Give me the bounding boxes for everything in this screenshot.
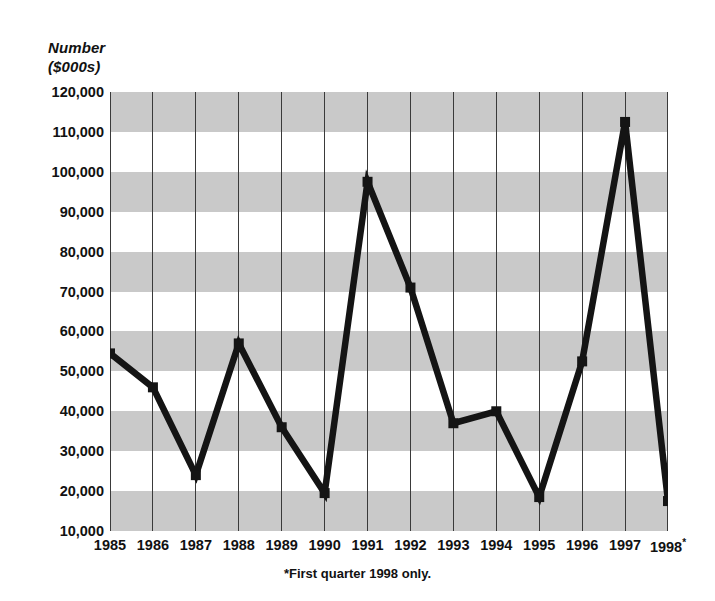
horizontal-band xyxy=(110,92,668,132)
data-point-marker xyxy=(534,492,544,502)
data-point-marker xyxy=(148,382,158,392)
y-axis-tick-labels: 120,000110,000100,00090,00080,00070,0006… xyxy=(24,92,104,531)
x-axis-tick-label: 1991 xyxy=(351,537,383,553)
x-axis-tick-label: 1997 xyxy=(609,537,641,553)
horizontal-band xyxy=(110,252,668,292)
x-axis-tick-label: 1993 xyxy=(437,537,469,553)
y-axis-tick-label: 100,000 xyxy=(28,164,104,180)
chart-footnote: *First quarter 1998 only. xyxy=(0,566,715,581)
y-axis-tick-label: 70,000 xyxy=(28,284,104,300)
data-point-marker xyxy=(620,117,630,127)
chart-figure: Number ($000s) 120,000110,000100,00090,0… xyxy=(0,0,715,601)
y-axis-tick-label: 30,000 xyxy=(28,443,104,459)
y-axis-tick-label: 60,000 xyxy=(28,323,104,339)
data-point-marker xyxy=(110,348,115,358)
y-axis-tick-label: 120,000 xyxy=(28,84,104,100)
horizontal-band xyxy=(110,491,668,531)
y-axis-tick-label: 110,000 xyxy=(28,124,104,140)
x-axis-tick-label: 1988 xyxy=(223,537,255,553)
x-axis-tick-label: 1994 xyxy=(480,537,512,553)
data-point-marker xyxy=(277,422,287,432)
y-axis-tick-label: 20,000 xyxy=(28,483,104,499)
line-chart-svg xyxy=(110,92,668,531)
y-axis-tick-label: 10,000 xyxy=(28,523,104,539)
data-point-marker xyxy=(405,283,415,293)
data-point-marker xyxy=(320,488,330,498)
y-axis-tick-label: 50,000 xyxy=(28,363,104,379)
x-axis-tick-label: 1998* xyxy=(650,537,686,555)
x-axis-tick-superscript: * xyxy=(682,537,686,548)
x-axis-tick-label: 1995 xyxy=(523,537,555,553)
x-axis-tick-label: 1987 xyxy=(180,537,212,553)
y-axis-tick-label: 90,000 xyxy=(28,204,104,220)
x-axis-tick-label: 1985 xyxy=(94,537,126,553)
y-axis-tick-label: 80,000 xyxy=(28,244,104,260)
horizontal-band xyxy=(110,411,668,451)
data-point-marker xyxy=(234,338,244,348)
data-point-marker xyxy=(663,496,668,506)
x-axis-tick-label: 1986 xyxy=(137,537,169,553)
data-point-marker xyxy=(577,356,587,366)
x-axis-tick-label: 1992 xyxy=(394,537,426,553)
x-axis-tick-label: 1996 xyxy=(566,537,598,553)
data-point-marker xyxy=(191,470,201,480)
y-axis-caption: Number ($000s) xyxy=(48,38,105,76)
x-axis-tick-labels: 1985198619871988198919901991199219931994… xyxy=(110,537,668,561)
x-axis-tick-label: 1989 xyxy=(266,537,298,553)
horizontal-band xyxy=(110,172,668,212)
data-point-marker xyxy=(448,418,458,428)
data-point-marker xyxy=(363,177,373,187)
plot-area xyxy=(110,92,668,531)
y-axis-tick-label: 40,000 xyxy=(28,403,104,419)
data-point-marker xyxy=(491,406,501,416)
x-axis-tick-label: 1990 xyxy=(308,537,340,553)
